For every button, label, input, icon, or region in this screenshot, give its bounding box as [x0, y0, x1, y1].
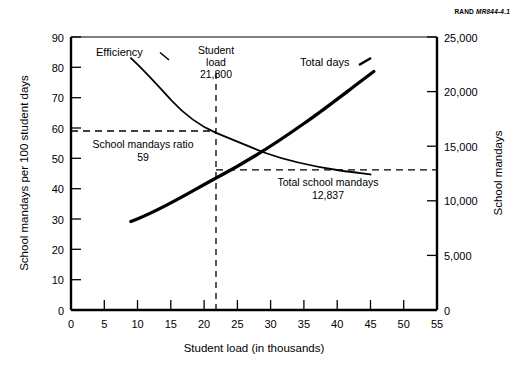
school-mandays-ratio-annotation-value: 59 [137, 151, 149, 163]
x-tick-label-5: 5 [101, 318, 107, 330]
right-axis-ticks [427, 37, 437, 255]
left-tick-label-90: 90 [52, 32, 64, 44]
bottom-axis-ticks [104, 300, 403, 310]
line-chart: 90 80 70 60 50 40 30 20 10 0 25,000 20,0… [0, 0, 518, 373]
figure-container: RAND MR844-4.1 90 80 70 60 50 [0, 0, 518, 373]
x-tick-label-10: 10 [131, 318, 143, 330]
school-mandays-ratio-annotation: School mandays ratio 59 [93, 138, 194, 163]
left-tick-label-70: 70 [52, 92, 64, 104]
school-mandays-ratio-annotation-line1: School mandays ratio [93, 138, 194, 150]
x-tick-label-20: 20 [198, 318, 210, 330]
left-tick-label-0: 0 [58, 305, 64, 317]
x-tick-label-25: 25 [231, 318, 243, 330]
efficiency-series-label: Efficiency [96, 46, 143, 58]
student-load-annotation-value: 21,800 [200, 68, 232, 80]
left-tick-label-20: 20 [52, 244, 64, 256]
total-days-series-label: Total days [300, 56, 350, 68]
x-tick-label-30: 30 [264, 318, 276, 330]
right-tick-label-20000: 20,000 [444, 86, 478, 98]
left-tick-label-60: 60 [52, 123, 64, 135]
left-tick-label-80: 80 [52, 62, 64, 74]
credit-doc-id: MR844-4.1 [476, 8, 510, 15]
total-school-mandays-annotation-line1: Total school mandays [278, 176, 379, 188]
total-school-mandays-annotation: Total school mandays 12,837 [278, 176, 379, 201]
student-load-annotation-line2: load [206, 56, 226, 68]
x-axis-title: Student load (in thousands) [184, 342, 325, 354]
right-tick-label-0: 0 [444, 305, 450, 317]
x-tick-label-35: 35 [298, 318, 310, 330]
rand-credit-line: RAND MR844-4.1 [454, 8, 510, 15]
x-tick-label-15: 15 [165, 318, 177, 330]
left-axis-ticks [71, 37, 81, 280]
total-days-label-leader [359, 58, 371, 65]
x-tick-label-45: 45 [364, 318, 376, 330]
y2-axis-title: School mandays [492, 130, 504, 215]
right-tick-label-25000: 25,000 [444, 32, 478, 44]
x-tick-label-55: 55 [431, 318, 443, 330]
right-tick-label-10000: 10,000 [444, 195, 478, 207]
left-tick-label-30: 30 [52, 214, 64, 226]
bottom-axis-tick-labels: 0 5 10 15 20 25 30 35 40 45 50 55 [68, 318, 443, 330]
right-tick-label-5000: 5,000 [444, 250, 472, 262]
x-tick-label-40: 40 [331, 318, 343, 330]
y-axis-title: School mandays per 100 student days [18, 75, 30, 271]
left-tick-label-50: 50 [52, 153, 64, 165]
x-tick-label-50: 50 [398, 318, 410, 330]
total-school-mandays-annotation-value: 12,837 [312, 189, 344, 201]
credit-org: RAND [454, 8, 474, 15]
left-axis-tick-labels: 90 80 70 60 50 40 30 20 10 0 [52, 32, 64, 317]
reference-lines [71, 73, 437, 310]
student-load-annotation-line1: Student [198, 44, 234, 56]
x-tick-label-0: 0 [68, 318, 74, 330]
left-tick-label-40: 40 [52, 183, 64, 195]
student-load-annotation: Student load 21,800 [198, 44, 234, 80]
efficiency-label-leader [160, 53, 169, 61]
plot-frame [71, 37, 437, 310]
right-tick-label-15000: 15,000 [444, 141, 478, 153]
right-axis-tick-labels: 25,000 20,000 15,000 10,000 5,000 0 [444, 32, 478, 317]
left-tick-label-10: 10 [52, 274, 64, 286]
